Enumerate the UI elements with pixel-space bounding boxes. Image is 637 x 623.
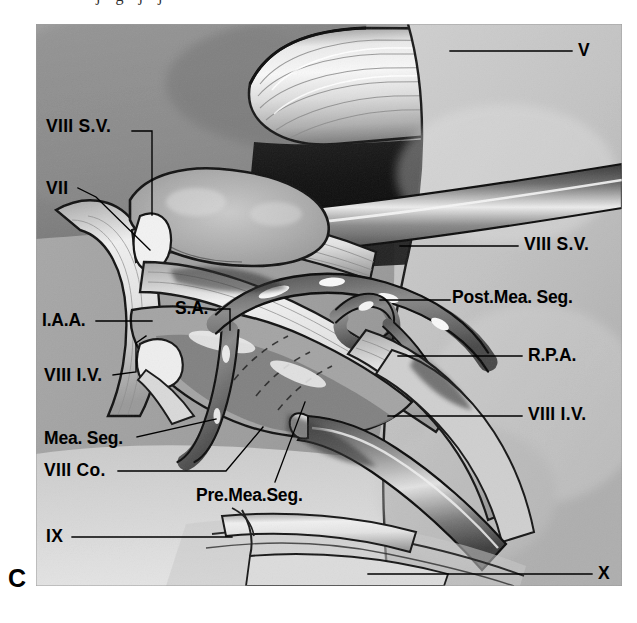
- label-viii-sv-right: VIII S.V.: [524, 236, 589, 254]
- label-post-mea-seg: Post.Mea. Seg.: [452, 289, 573, 307]
- label-v: V: [578, 42, 590, 60]
- cut-off-caption-text: j g j j: [96, 0, 168, 5]
- cut-off-caption-line: j g j j: [0, 0, 637, 14]
- label-viii-iv-right: VIII I.V.: [528, 406, 586, 424]
- label-iaa: I.A.A.: [42, 312, 86, 330]
- label-viii-co: VIII Co.: [44, 462, 106, 480]
- label-viii-sv-left: VIII S.V.: [46, 118, 111, 136]
- label-x: X: [598, 565, 610, 583]
- figure-page: j g j j: [0, 0, 637, 623]
- label-viii-iv-left: VIII I.V.: [44, 367, 102, 385]
- label-vii: VII: [46, 180, 68, 198]
- label-ix: IX: [46, 528, 63, 546]
- label-rpa: R.P.A.: [528, 347, 576, 365]
- label-mea-seg: Mea. Seg.: [44, 430, 123, 448]
- label-sa: S.A.: [175, 300, 208, 318]
- label-pre-mea-seg: Pre.Mea.Seg.: [196, 487, 303, 505]
- panel-letter: C: [8, 564, 26, 593]
